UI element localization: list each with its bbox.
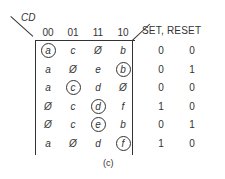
- column-header: 01: [63, 27, 83, 38]
- stable-state-cell: d: [89, 99, 107, 115]
- cell-value: f: [122, 101, 125, 112]
- state-cell: Ø: [89, 43, 107, 59]
- reset-output: 0: [185, 136, 199, 152]
- cell-value: c: [71, 45, 76, 56]
- state-cell: Ø: [64, 136, 82, 152]
- reset-output: 1: [185, 117, 199, 133]
- cell-value: d: [91, 99, 106, 114]
- cell-value: Ø: [44, 101, 52, 112]
- column-header: 10: [113, 27, 133, 38]
- cell-value: Ø: [69, 64, 77, 75]
- stable-state-cell: f: [114, 136, 132, 152]
- state-cell: e: [89, 62, 107, 78]
- state-cell: a: [39, 136, 57, 152]
- state-cell: Ø: [39, 99, 57, 115]
- cell-value: e: [91, 117, 106, 132]
- state-cell: a: [39, 80, 57, 96]
- set-output: 0: [154, 62, 168, 78]
- figure-caption: (c): [103, 158, 114, 168]
- set-output: 0: [154, 80, 168, 96]
- right-border: [132, 40, 133, 155]
- cell-value: d: [95, 82, 101, 93]
- state-cell: Ø: [39, 117, 57, 133]
- state-cell: Ø: [114, 80, 132, 96]
- state-cell: c: [64, 99, 82, 115]
- reset-output: 0: [185, 80, 199, 96]
- stable-state-cell: a: [39, 43, 57, 59]
- cell-value: c: [71, 119, 76, 130]
- state-cell: Ø: [64, 62, 82, 78]
- column-header: 11: [88, 27, 108, 38]
- state-cell: f: [114, 99, 132, 115]
- stable-state-cell: b: [114, 62, 132, 78]
- corner-label: CD: [21, 12, 35, 23]
- cell-value: f: [116, 136, 131, 151]
- stable-state-cell: e: [89, 117, 107, 133]
- left-border: [35, 40, 36, 155]
- cell-value: c: [71, 101, 76, 112]
- cell-value: b: [120, 45, 126, 56]
- state-cell: a: [39, 62, 57, 78]
- state-cell: b: [114, 43, 132, 59]
- cell-value: e: [95, 64, 101, 75]
- column-header: 00: [38, 27, 58, 38]
- set-output: 0: [154, 117, 168, 133]
- cell-value: a: [41, 43, 56, 58]
- cell-value: Ø: [94, 45, 102, 56]
- cell-value: c: [66, 80, 81, 95]
- top-border: [35, 40, 135, 41]
- cell-value: d: [95, 138, 101, 149]
- cell-value: Ø: [44, 119, 52, 130]
- cell-value: a: [45, 82, 51, 93]
- cell-value: Ø: [69, 138, 77, 149]
- set-output: 1: [154, 99, 168, 115]
- reset-output: 0: [185, 99, 199, 115]
- cell-value: Ø: [119, 82, 127, 93]
- cell-value: b: [120, 119, 126, 130]
- state-cell: c: [64, 117, 82, 133]
- state-cell: d: [89, 136, 107, 152]
- reset-output: 0: [185, 43, 199, 59]
- cell-value: a: [45, 138, 51, 149]
- reset-output: 1: [185, 62, 199, 78]
- state-cell: d: [89, 80, 107, 96]
- set-output: 1: [154, 136, 168, 152]
- output-header: SET, RESET: [142, 25, 201, 36]
- state-cell: b: [114, 117, 132, 133]
- set-output: 0: [154, 43, 168, 59]
- stable-state-cell: c: [64, 80, 82, 96]
- state-cell: c: [64, 43, 82, 59]
- cell-value: a: [45, 64, 51, 75]
- cell-value: b: [116, 62, 131, 77]
